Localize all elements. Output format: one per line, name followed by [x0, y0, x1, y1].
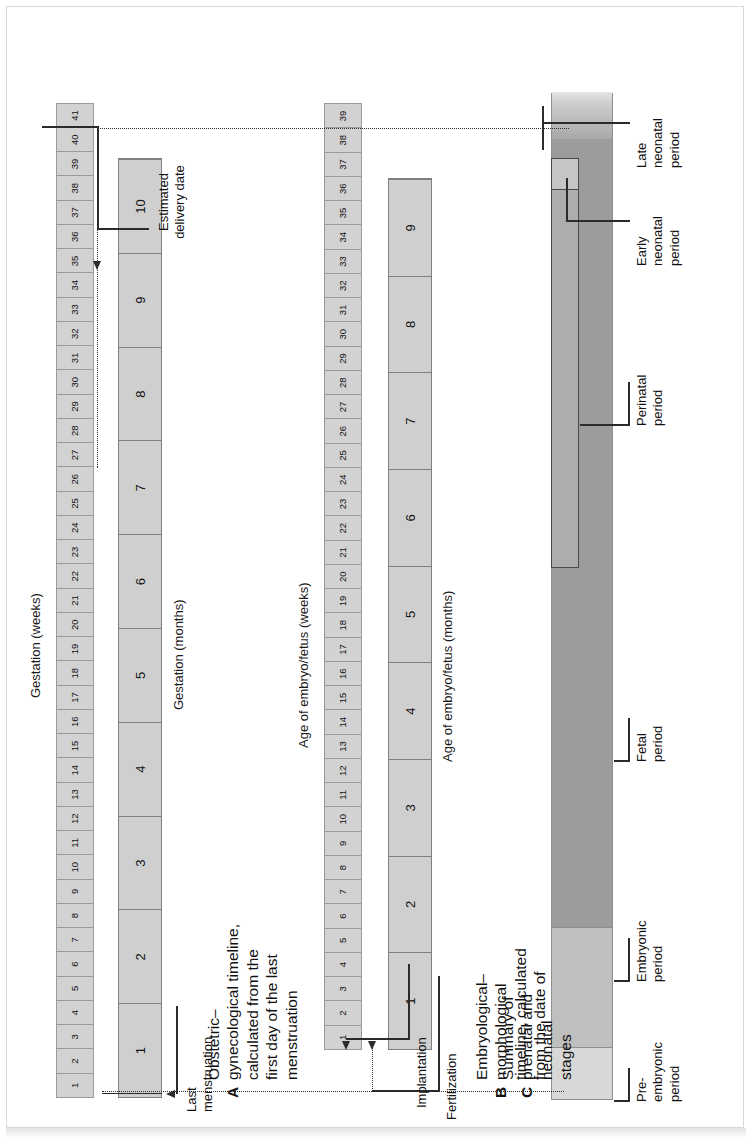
gestation-week-cell[interactable]: 40	[57, 127, 93, 151]
gestation-week-cell[interactable]: 15	[57, 733, 93, 757]
gestation-week-cell[interactable]: 39	[57, 151, 93, 175]
gestation-week-cell[interactable]: 33	[57, 297, 93, 321]
embryo-week-cell[interactable]: 19	[325, 588, 361, 612]
embryo-week-cell[interactable]: 22	[325, 516, 361, 540]
embryo-week-cell[interactable]: 6	[325, 904, 361, 928]
gestation-week-cell[interactable]: 14	[57, 758, 93, 782]
embryo-week-cell[interactable]: 39	[325, 104, 361, 127]
embryo-month-cell[interactable]: 5	[389, 566, 431, 663]
embryo-week-cell[interactable]: 38	[325, 128, 361, 152]
embryo-week-cell[interactable]: 26	[325, 419, 361, 443]
stage-late-neonatal[interactable]	[552, 92, 612, 139]
gestation-week-cell[interactable]: 23	[57, 539, 93, 563]
gestation-week-cell[interactable]: 13	[57, 782, 93, 806]
gestation-month-cell[interactable]: 1	[119, 1003, 161, 1097]
gestation-week-cell[interactable]: 16	[57, 709, 93, 733]
embryo-week-cell[interactable]: 23	[325, 491, 361, 515]
gestation-week-cell[interactable]: 3	[57, 1024, 93, 1048]
gestation-week-cell[interactable]: 1	[57, 1073, 93, 1097]
gestation-week-cell[interactable]: 19	[57, 636, 93, 660]
embryo-weeks-scale[interactable]: 1234567891011121314151617181920212223242…	[324, 103, 362, 1050]
embryo-week-cell[interactable]: 21	[325, 540, 361, 564]
gestation-week-cell[interactable]: 8	[57, 903, 93, 927]
gestation-week-cell[interactable]: 7	[57, 927, 93, 951]
embryo-week-cell[interactable]: 5	[325, 928, 361, 952]
embryo-week-cell[interactable]: 25	[325, 443, 361, 467]
embryo-week-cell[interactable]: 13	[325, 734, 361, 758]
embryo-week-cell[interactable]: 32	[325, 273, 361, 297]
gestation-week-cell[interactable]: 6	[57, 952, 93, 976]
embryo-week-cell[interactable]: 7	[325, 879, 361, 903]
gestation-week-cell[interactable]: 35	[57, 248, 93, 272]
embryo-week-cell[interactable]: 10	[325, 807, 361, 831]
embryo-months-scale[interactable]: 123456789	[388, 178, 432, 1050]
embryo-week-cell[interactable]: 9	[325, 831, 361, 855]
embryo-month-cell[interactable]: 3	[389, 759, 431, 856]
gestation-week-cell[interactable]: 36	[57, 224, 93, 248]
gestation-weeks-scale[interactable]: 1234567891011121314151617181920212223242…	[56, 103, 94, 1098]
gestation-months-scale[interactable]: 12345678910	[118, 158, 162, 1098]
gestation-week-cell[interactable]: 27	[57, 442, 93, 466]
gestation-month-cell[interactable]: 10	[119, 159, 161, 253]
gestation-week-cell[interactable]: 25	[57, 491, 93, 515]
gestation-week-cell[interactable]: 26	[57, 467, 93, 491]
stage-perinatal[interactable]	[551, 158, 579, 568]
embryo-week-cell[interactable]: 30	[325, 322, 361, 346]
gestation-week-cell[interactable]: 20	[57, 612, 93, 636]
stage-early-neonatal[interactable]	[551, 158, 579, 190]
gestation-month-cell[interactable]: 3	[119, 816, 161, 910]
gestation-month-cell[interactable]: 7	[119, 440, 161, 534]
gestation-week-cell[interactable]: 5	[57, 976, 93, 1000]
embryo-month-cell[interactable]: 2	[389, 856, 431, 953]
embryo-week-cell[interactable]: 31	[325, 297, 361, 321]
embryo-week-cell[interactable]: 15	[325, 685, 361, 709]
gestation-week-cell[interactable]: 12	[57, 806, 93, 830]
embryo-week-cell[interactable]: 18	[325, 613, 361, 637]
gestation-week-cell[interactable]: 41	[57, 104, 93, 127]
gestation-week-cell[interactable]: 11	[57, 830, 93, 854]
gestation-week-cell[interactable]: 24	[57, 515, 93, 539]
embryo-week-cell[interactable]: 16	[325, 661, 361, 685]
gestation-week-cell[interactable]: 37	[57, 200, 93, 224]
embryo-week-cell[interactable]: 11	[325, 782, 361, 806]
embryo-month-cell[interactable]: 7	[389, 372, 431, 469]
gestation-week-cell[interactable]: 9	[57, 879, 93, 903]
embryo-week-cell[interactable]: 34	[325, 225, 361, 249]
gestation-week-cell[interactable]: 22	[57, 564, 93, 588]
embryo-week-cell[interactable]: 2	[325, 1001, 361, 1025]
gestation-week-cell[interactable]: 30	[57, 370, 93, 394]
gestation-week-cell[interactable]: 21	[57, 588, 93, 612]
gestation-week-cell[interactable]: 10	[57, 855, 93, 879]
gestation-week-cell[interactable]: 28	[57, 418, 93, 442]
embryo-week-cell[interactable]: 17	[325, 637, 361, 661]
embryo-month-cell[interactable]: 4	[389, 662, 431, 759]
gestation-month-cell[interactable]: 8	[119, 347, 161, 441]
embryo-week-cell[interactable]: 8	[325, 855, 361, 879]
gestation-week-cell[interactable]: 31	[57, 345, 93, 369]
embryo-week-cell[interactable]: 35	[325, 200, 361, 224]
embryo-week-cell[interactable]: 3	[325, 976, 361, 1000]
gestation-month-cell[interactable]: 9	[119, 253, 161, 347]
embryo-month-cell[interactable]: 9	[389, 179, 431, 276]
gestation-month-cell[interactable]: 4	[119, 722, 161, 816]
gestation-month-cell[interactable]: 5	[119, 628, 161, 722]
embryo-week-cell[interactable]: 36	[325, 176, 361, 200]
gestation-week-cell[interactable]: 2	[57, 1049, 93, 1073]
gestation-week-cell[interactable]: 34	[57, 273, 93, 297]
gestation-week-cell[interactable]: 32	[57, 321, 93, 345]
embryo-week-cell[interactable]: 20	[325, 564, 361, 588]
embryo-week-cell[interactable]: 33	[325, 249, 361, 273]
gestation-month-cell[interactable]: 6	[119, 534, 161, 628]
embryo-week-cell[interactable]: 29	[325, 346, 361, 370]
gestation-month-cell[interactable]: 2	[119, 909, 161, 1003]
gestation-week-cell[interactable]: 4	[57, 1000, 93, 1024]
gestation-week-cell[interactable]: 18	[57, 661, 93, 685]
embryo-month-cell[interactable]: 6	[389, 469, 431, 566]
embryo-week-cell[interactable]: 14	[325, 710, 361, 734]
gestation-week-cell[interactable]: 38	[57, 176, 93, 200]
embryo-week-cell[interactable]: 27	[325, 394, 361, 418]
embryo-week-cell[interactable]: 4	[325, 952, 361, 976]
gestation-week-cell[interactable]: 17	[57, 685, 93, 709]
embryo-week-cell[interactable]: 24	[325, 467, 361, 491]
gestation-week-cell[interactable]: 29	[57, 394, 93, 418]
